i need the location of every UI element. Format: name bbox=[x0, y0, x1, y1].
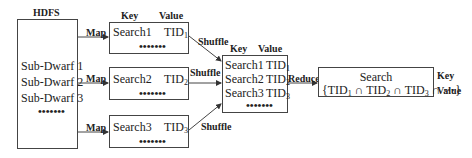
map-key: Search1 bbox=[113, 26, 152, 38]
hdfs-title: HDFS bbox=[33, 8, 60, 18]
shuffle-value: TID1 bbox=[266, 59, 290, 71]
map-key-header: Key bbox=[121, 11, 138, 21]
map-ellipsis: ••••••• bbox=[139, 41, 166, 52]
shuffle-key: Search2 bbox=[225, 73, 264, 85]
shuffle-ellipsis: ••••••• bbox=[246, 100, 273, 111]
map-value: TID1 bbox=[164, 26, 188, 38]
map-ellipsis: ••••••• bbox=[139, 136, 166, 147]
hdfs-box: Sub-Dwarf 1 Sub-Dwarf 2 Sub-Dwarf 3 ••••… bbox=[17, 19, 78, 149]
hdfs-item: Sub-Dwarf 2 bbox=[21, 76, 83, 88]
map-value: TID3 bbox=[164, 121, 188, 133]
reduce-value-label: Value bbox=[437, 86, 461, 96]
hdfs-ellipsis: ••••••• bbox=[38, 106, 65, 117]
map-value: TID2 bbox=[164, 73, 188, 85]
shuffle-key: Search1 bbox=[225, 59, 264, 71]
shuffle-output-box: Search1 TID1 Search2 TID2 Search3 TID3 •… bbox=[222, 55, 288, 113]
shuffle-key-header: Key bbox=[230, 44, 247, 54]
shuffle-value: TID3 bbox=[266, 87, 290, 99]
hdfs-item: Sub-Dwarf 3 bbox=[21, 92, 83, 104]
shuffle-key: Search3 bbox=[225, 87, 264, 99]
shuffle-value-header: Value bbox=[258, 44, 282, 54]
shuffle-label: Shuffle bbox=[190, 68, 221, 78]
map-output-box: Search2 TID2 ••••••• bbox=[109, 67, 189, 100]
map-ellipsis: ••••••• bbox=[139, 88, 166, 99]
map-key: Search3 bbox=[113, 121, 152, 133]
hdfs-item: Sub-Dwarf 1 bbox=[21, 60, 83, 72]
shuffle-value: TID2 bbox=[266, 73, 290, 85]
map-output-box: Search3 TID3 ••••••• bbox=[109, 115, 189, 148]
reduce-label: Reduce bbox=[288, 74, 320, 84]
map-key: Search2 bbox=[113, 73, 152, 85]
map-label: Map bbox=[86, 28, 106, 38]
shuffle-label: Shuffle bbox=[201, 122, 232, 132]
reduce-output-box: Search {TID1 ∩ TID2 ∩ TID3 ∩ ⋯} bbox=[318, 67, 434, 97]
map-value-header: Value bbox=[159, 11, 183, 21]
reduce-key-label: Key bbox=[437, 71, 454, 81]
map-label: Map bbox=[86, 74, 106, 84]
shuffle-label: Shuffle bbox=[198, 37, 229, 47]
map-output-box: Search1 TID1 ••••••• bbox=[109, 22, 189, 54]
reduce-key: Search bbox=[319, 71, 433, 83]
map-label: Map bbox=[86, 123, 106, 133]
